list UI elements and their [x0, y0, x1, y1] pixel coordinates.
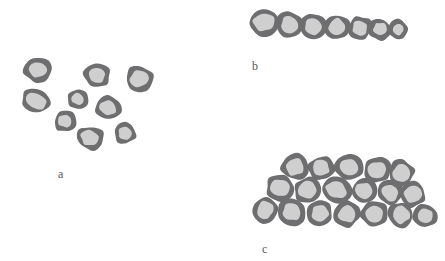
- cell: [334, 154, 364, 180]
- cell: [412, 204, 438, 227]
- cell: [300, 14, 327, 39]
- cell-cytoplasm: [368, 162, 386, 178]
- cell: [295, 176, 321, 202]
- cell: [352, 178, 378, 203]
- panel-a-label: a: [58, 168, 63, 180]
- panel-b-cells: [230, 0, 445, 60]
- panel-a: [0, 0, 200, 190]
- cell: [23, 58, 52, 83]
- cell: [324, 16, 351, 39]
- cell: [307, 200, 332, 226]
- cell: [83, 63, 110, 86]
- cell: [127, 66, 154, 92]
- panel-c-label: c: [262, 243, 267, 255]
- cell: [307, 156, 335, 180]
- cell: [348, 16, 372, 39]
- cell: [95, 95, 122, 119]
- cell: [267, 175, 295, 202]
- cell: [276, 11, 303, 37]
- cell: [387, 19, 408, 39]
- cell-cytoplasm: [283, 203, 301, 220]
- cell: [252, 197, 278, 224]
- panel-b-label: b: [252, 60, 258, 72]
- cell: [55, 111, 76, 131]
- cell: [278, 199, 305, 227]
- cell-arrangement-figure: a b c: [0, 0, 445, 261]
- panel-b: [230, 0, 445, 60]
- cell: [359, 201, 387, 226]
- cell: [68, 90, 89, 109]
- panel-c: [230, 140, 445, 250]
- cell: [333, 200, 360, 228]
- cell-cytoplasm: [418, 209, 433, 223]
- cell: [250, 9, 280, 37]
- cell: [77, 127, 104, 151]
- cell: [387, 203, 412, 228]
- cell: [115, 122, 137, 144]
- cell: [322, 176, 353, 203]
- panel-c-cells: [230, 140, 445, 250]
- panel-a-cells: [0, 0, 200, 190]
- cell: [22, 89, 51, 113]
